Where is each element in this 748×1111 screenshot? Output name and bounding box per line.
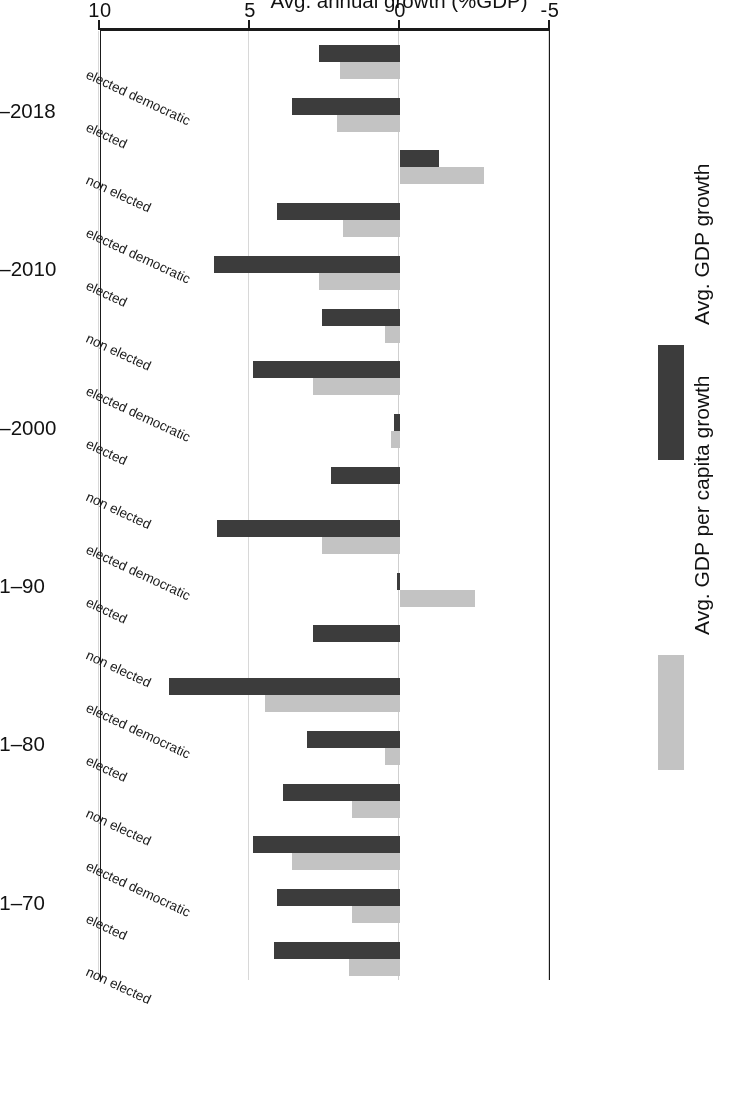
- bar-gdp-growth: [214, 256, 400, 273]
- bar-gdp-growth: [292, 98, 400, 115]
- period-label: 2001–2010: [0, 258, 75, 282]
- bar-gdp-per-capita-growth: [343, 220, 400, 237]
- bar-gdp-growth: [397, 573, 400, 590]
- bar-gdp-per-capita-growth: [292, 853, 400, 870]
- bar-gdp-per-capita-growth: [400, 167, 484, 184]
- gridline: [548, 31, 549, 980]
- rotated-figure-wrapper: -50510 non electedelectedelected democra…: [0, 0, 748, 1111]
- bar-gdp-per-capita-growth: [319, 273, 400, 290]
- bar-gdp-per-capita-growth: [337, 115, 400, 132]
- period-label: 1961–70: [0, 891, 75, 915]
- axis-tick-label: 10: [70, 0, 130, 22]
- period-label: 1981–90: [0, 574, 75, 598]
- legend-label-gdp-growth: Avg. GDP growth: [690, 164, 714, 325]
- period-label: 2011–2018: [0, 99, 75, 123]
- bar-gdp-growth: [331, 467, 400, 484]
- bar-gdp-growth: [217, 520, 400, 537]
- bar-gdp-per-capita-growth: [385, 326, 400, 343]
- value-axis-title: Avg. annual growth (%GDP): [174, 0, 624, 13]
- value-axis-line: [100, 28, 550, 30]
- bar-gdp-growth: [169, 678, 400, 695]
- bar-gdp-per-capita-growth: [340, 62, 400, 79]
- bar-gdp-per-capita-growth: [400, 590, 475, 607]
- gridline: [248, 31, 249, 980]
- bar-gdp-growth: [319, 45, 400, 62]
- bar-gdp-growth: [253, 361, 400, 378]
- bar-gdp-per-capita-growth: [265, 695, 400, 712]
- period-label: 1971–80: [0, 733, 75, 757]
- chart-legend: Avg. GDP growth Avg. GDP per capita grow…: [616, 30, 726, 980]
- bar-gdp-growth: [322, 309, 400, 326]
- chart-figure: -50510 non electedelectedelected democra…: [0, 0, 748, 1111]
- period-label: 1991–2000: [0, 416, 75, 440]
- bar-gdp-growth: [277, 203, 400, 220]
- legend-swatch-gdp-growth: [658, 345, 684, 460]
- bar-gdp-growth: [283, 784, 400, 801]
- legend-swatch-gdp-per-capita-growth: [658, 655, 684, 770]
- bar-gdp-growth: [313, 625, 400, 642]
- legend-label-gdp-per-capita-growth: Avg. GDP per capita growth: [690, 375, 714, 635]
- bar-gdp-per-capita-growth: [313, 378, 400, 395]
- bar-gdp-per-capita-growth: [352, 801, 400, 818]
- bar-gdp-per-capita-growth: [391, 431, 400, 448]
- bar-gdp-growth: [400, 150, 439, 167]
- bar-gdp-growth: [307, 731, 400, 748]
- bar-gdp-growth: [253, 836, 400, 853]
- bar-gdp-growth: [394, 414, 400, 431]
- bar-gdp-per-capita-growth: [385, 748, 400, 765]
- bar-gdp-growth: [274, 942, 400, 959]
- bar-gdp-per-capita-growth: [322, 537, 400, 554]
- bar-gdp-growth: [277, 889, 400, 906]
- bar-gdp-per-capita-growth: [349, 959, 400, 976]
- bar-gdp-per-capita-growth: [352, 906, 400, 923]
